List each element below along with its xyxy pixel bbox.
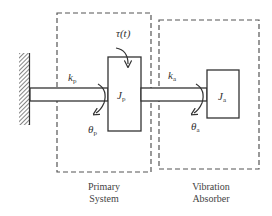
torque-label: τ(t) bbox=[116, 28, 130, 39]
absorber-caption: Vibration Absorber bbox=[183, 181, 239, 205]
theta-a-label: θa bbox=[191, 121, 200, 134]
primary-caption-line1: Primary bbox=[80, 181, 128, 193]
ka-label: ka bbox=[168, 70, 176, 83]
absorber-shaft bbox=[141, 88, 207, 101]
kp-label: kp bbox=[68, 72, 76, 85]
primary-system-caption: Primary System bbox=[80, 181, 128, 205]
vibration-absorber-diagram: τ(t) kp Jp θp ka Ja θa Primary System Vi… bbox=[0, 0, 272, 216]
jp-label: Jp bbox=[117, 90, 125, 103]
absorber-caption-line2: Absorber bbox=[183, 193, 239, 205]
fixed-wall bbox=[19, 53, 29, 125]
primary-caption-line2: System bbox=[80, 193, 128, 205]
theta-p-label: θp bbox=[88, 124, 97, 137]
absorber-caption-line1: Vibration bbox=[183, 181, 239, 193]
ja-label: Ja bbox=[218, 91, 226, 104]
primary-shaft bbox=[30, 88, 108, 101]
